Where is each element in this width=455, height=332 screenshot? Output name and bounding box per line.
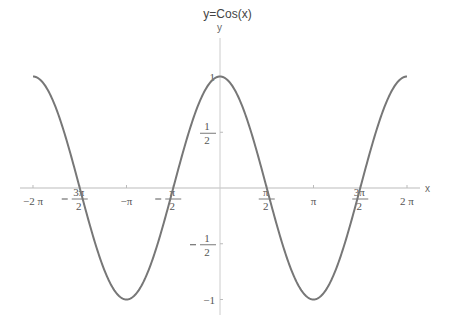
y-tick-label: −1 — [203, 294, 215, 306]
x-axis-label: x — [425, 183, 430, 194]
x-tick-label: 3π2 — [62, 186, 88, 212]
y-tick-label: 12 — [190, 232, 216, 258]
svg-text:1: 1 — [204, 120, 210, 132]
svg-text:2 π: 2 π — [400, 195, 414, 207]
svg-text:2: 2 — [204, 246, 210, 258]
plot-area: −2 π3π2−ππ2π2π3π22 π11212−1 x y — [0, 0, 455, 332]
y-axis-label: y — [217, 22, 222, 33]
svg-text:π: π — [311, 195, 317, 207]
x-tick-label: 2 π — [400, 195, 414, 207]
x-tick-label: π — [311, 195, 317, 207]
svg-text:2: 2 — [263, 200, 269, 212]
svg-text:2: 2 — [76, 200, 82, 212]
svg-text:2: 2 — [204, 134, 210, 146]
x-tick-label: −2 π — [23, 195, 43, 207]
x-tick-label: −π — [121, 195, 133, 207]
y-tick-label: 12 — [200, 120, 216, 146]
svg-text:−π: −π — [121, 195, 133, 207]
svg-text:−2 π: −2 π — [23, 195, 43, 207]
svg-text:−1: −1 — [203, 294, 215, 306]
svg-text:1: 1 — [204, 232, 210, 244]
